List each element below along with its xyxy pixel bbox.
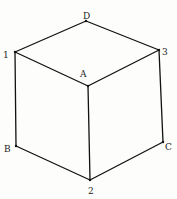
edge-C-2 (90, 142, 163, 180)
label-1: 1 (3, 50, 9, 60)
cube-drawing: D 1 3 A B C 2 (0, 0, 177, 199)
vertex-A (87, 85, 89, 87)
vertex-3 (158, 49, 160, 51)
vertex-2 (89, 179, 91, 181)
edge-B-2 (16, 146, 90, 180)
label-A: A (79, 69, 87, 79)
edge-3-A (88, 50, 159, 86)
edge-D-3 (86, 21, 159, 50)
label-B: B (4, 144, 11, 154)
vertex-1 (14, 51, 16, 53)
label-C: C (165, 142, 172, 152)
edge-3-C (159, 50, 163, 142)
edge-D-1 (15, 21, 86, 52)
cube-diagram: D 1 3 A B C 2 (0, 0, 177, 199)
vertex-C (162, 141, 164, 143)
label-3: 3 (162, 47, 168, 57)
edge-1-B (15, 52, 16, 146)
vertex-B (15, 145, 17, 147)
edge-A-2 (88, 86, 90, 180)
label-2: 2 (88, 186, 94, 196)
label-D: D (83, 11, 90, 21)
edge-1-A (15, 52, 88, 86)
